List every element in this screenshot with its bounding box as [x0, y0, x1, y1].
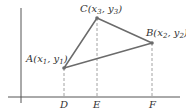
- point-C: [95, 16, 99, 20]
- point-A: [62, 66, 66, 70]
- label-F: F: [148, 99, 157, 110]
- label-A: A(x1, y1): [25, 53, 68, 66]
- point-B: [150, 41, 154, 45]
- label-C: C(x3, y3): [80, 3, 122, 16]
- triangle-ABC: [64, 18, 152, 68]
- label-B: B(x2, y2): [145, 27, 186, 40]
- triangle-coordinate-diagram: A(x1, y1) C(x3, y3) B(x2, y2) D E F: [0, 0, 186, 111]
- label-D: D: [59, 99, 68, 110]
- label-E: E: [92, 99, 101, 110]
